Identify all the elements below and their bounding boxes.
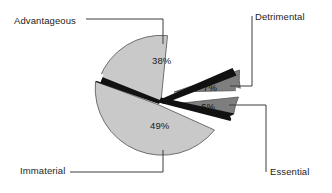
slice-value-advantageous: 38%	[152, 55, 171, 66]
callout-label-detrimental: Detrimental	[255, 11, 305, 22]
callout-label-essential: Essential	[270, 166, 309, 177]
callout-label-advantageous: Advantageous	[14, 15, 76, 26]
callout-label-immaterial: Immaterial	[20, 165, 65, 176]
slice-value-essential: 6%	[201, 101, 215, 112]
slice-value-immaterial: 49%	[150, 120, 169, 131]
pie-explosion-gap-upper-right	[236, 88, 242, 97]
slice-value-detrimental: 7%	[203, 82, 217, 93]
pie-chart: Advantageous Detrimental Immaterial Esse…	[0, 0, 332, 193]
